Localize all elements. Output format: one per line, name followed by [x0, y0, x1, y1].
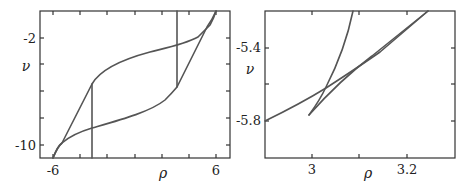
left-x-axis-label: ρ — [158, 165, 168, 181]
left-lower-s-curve — [53, 11, 216, 158]
left-y-axis-label: ν — [22, 58, 31, 74]
right-x-tick-label-left: 3 — [308, 162, 316, 177]
right-steep-branch — [309, 11, 353, 115]
right-plot-frame — [265, 11, 455, 158]
left-plot: -2 -10 ν -6 6 ρ — [15, 11, 230, 181]
left-upper-s-curve — [53, 11, 216, 158]
figure: -2 -10 ν -6 6 ρ -5.4 -5.8 ν 3 — [0, 0, 472, 188]
left-y-tick-label-bottom: -10 — [15, 138, 36, 153]
right-y-tick-label-top: -5.4 — [236, 40, 261, 55]
right-x-axis-label: ρ — [363, 165, 373, 181]
right-x-ticks — [312, 11, 407, 158]
right-y-axis-label: ν — [246, 61, 255, 77]
left-x-ticks — [53, 11, 216, 158]
left-y-tick-label-top: -2 — [23, 31, 36, 46]
right-y-ticks — [265, 48, 455, 121]
left-x-tick-label-left: -6 — [47, 163, 60, 178]
right-shallow-branch — [265, 11, 428, 121]
left-x-tick-label-right: 6 — [212, 163, 220, 178]
right-x-tick-label-right: 3.2 — [397, 162, 418, 177]
right-plot: -5.4 -5.8 ν 3 3.2 ρ — [236, 11, 455, 181]
right-y-tick-label-bottom: -5.8 — [236, 113, 261, 128]
